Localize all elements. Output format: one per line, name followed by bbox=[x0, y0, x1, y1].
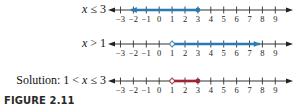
tick-label: 4 bbox=[209, 85, 214, 95]
tick-label: 6 bbox=[234, 85, 238, 95]
axis-left-arrow-icon bbox=[108, 8, 115, 13]
tick-label: −2 bbox=[129, 85, 138, 95]
segment-arrow-icon bbox=[254, 41, 260, 47]
tick-label: 2 bbox=[183, 85, 187, 95]
tick-label: 6 bbox=[234, 14, 238, 24]
axis-right-arrow-icon bbox=[286, 42, 293, 47]
tick-label: 1 bbox=[170, 85, 174, 95]
tick-label: 9 bbox=[273, 48, 277, 58]
figure-caption: FIGURE 2.11 bbox=[4, 95, 75, 106]
tick-label: 9 bbox=[273, 85, 277, 95]
axis-left-arrow-icon bbox=[108, 42, 115, 47]
tick-label: −3 bbox=[116, 85, 125, 95]
tick-label: 7 bbox=[247, 85, 251, 95]
tick-label: 5 bbox=[222, 14, 226, 24]
axis-right-arrow-icon bbox=[286, 8, 293, 13]
tick-label: 1 bbox=[170, 14, 174, 24]
tick-label: 4 bbox=[209, 48, 214, 58]
number-line-diagram: −3−2−10123456789−3−2−10123456789−3−2−101… bbox=[0, 0, 304, 110]
tick-label: −1 bbox=[142, 48, 151, 58]
tick-label: 2 bbox=[183, 48, 187, 58]
open-endpoint-icon bbox=[170, 79, 175, 84]
open-endpoint-icon bbox=[170, 42, 175, 47]
tick-label: 4 bbox=[209, 14, 214, 24]
tick-label: 5 bbox=[222, 85, 226, 95]
tick-label: −1 bbox=[142, 14, 151, 24]
tick-label: 5 bbox=[222, 48, 226, 58]
tick-label: −2 bbox=[129, 48, 138, 58]
tick-label: 8 bbox=[260, 48, 264, 58]
axis-left-arrow-icon bbox=[108, 79, 115, 84]
tick-label: −3 bbox=[116, 48, 125, 58]
tick-label: 0 bbox=[157, 85, 161, 95]
tick-label: 3 bbox=[196, 48, 200, 58]
closed-endpoint-icon bbox=[196, 79, 201, 84]
tick-label: 1 bbox=[170, 48, 174, 58]
tick-label: −2 bbox=[129, 14, 138, 24]
tick-label: 9 bbox=[273, 14, 277, 24]
closed-endpoint-icon bbox=[196, 8, 201, 13]
tick-label: 8 bbox=[260, 14, 264, 24]
tick-label: 0 bbox=[157, 14, 161, 24]
tick-label: −1 bbox=[142, 85, 151, 95]
tick-label: 6 bbox=[234, 48, 238, 58]
tick-label: 0 bbox=[157, 48, 161, 58]
axis-right-arrow-icon bbox=[286, 79, 293, 84]
tick-label: 3 bbox=[196, 14, 200, 24]
tick-label: 7 bbox=[247, 48, 251, 58]
tick-label: −3 bbox=[116, 14, 125, 24]
tick-label: 2 bbox=[183, 14, 187, 24]
tick-label: 3 bbox=[196, 85, 200, 95]
tick-label: 7 bbox=[247, 14, 251, 24]
tick-label: 8 bbox=[260, 85, 264, 95]
